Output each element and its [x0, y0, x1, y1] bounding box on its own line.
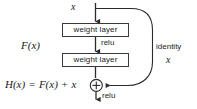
output-equation-label: H(x) = F(x) + x	[5, 79, 76, 90]
equation-lhs: H(x)	[5, 78, 25, 90]
relu-label-output: relu	[102, 92, 115, 100]
equation-plus: +	[61, 78, 69, 90]
identity-value-label: x	[166, 55, 170, 65]
weight-layer-box-2-label: weight layer	[74, 56, 118, 64]
equation-rhs-term-1: F(x)	[39, 78, 58, 90]
input-label-x: x	[71, 2, 75, 12]
identity-branch-label: identity	[156, 43, 181, 51]
weight-layer-box-1-label: weight layer	[74, 26, 118, 34]
weight-layer-box-2: weight layer	[62, 53, 129, 67]
wire-identity-shortcut	[96, 9, 153, 86]
relu-label-middle: relu	[101, 39, 114, 47]
residual-branch-label: F(x)	[21, 40, 40, 51]
plus-circle-icon	[90, 79, 102, 91]
residual-block-diagram: x weight layer relu weight layer F(x) id…	[0, 0, 197, 109]
equation-equals: =	[28, 78, 36, 90]
equation-rhs-term-2: x	[72, 78, 77, 90]
weight-layer-box-1: weight layer	[62, 23, 129, 37]
